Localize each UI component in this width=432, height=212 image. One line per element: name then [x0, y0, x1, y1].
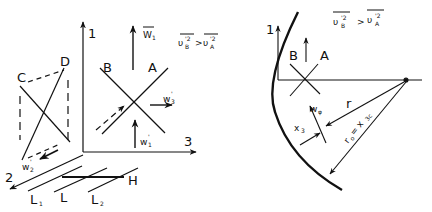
line-l	[54, 168, 107, 192]
svg-text:2: 2	[30, 166, 34, 173]
center-point	[404, 78, 408, 82]
label-a: A	[148, 60, 157, 75]
label-axis-1-right: 1	[266, 22, 274, 37]
svg-text:3c: 3c	[363, 112, 373, 122]
svg-text:'2: '2	[341, 14, 347, 21]
label-d: D	[60, 54, 70, 69]
svg-text:'2: '2	[185, 35, 191, 42]
right-labels: 1 B A r w φ x 3 r o = x 3c υ B '2 > υ A …	[266, 10, 384, 146]
label-axis-3: 3	[184, 134, 192, 149]
curved-wall	[272, 12, 342, 190]
svg-text:B: B	[341, 22, 345, 29]
svg-text:'2: '2	[210, 35, 216, 42]
label-b: B	[103, 60, 112, 75]
svg-text:2: 2	[100, 200, 104, 207]
label-x3: x	[294, 123, 300, 133]
label-r: r	[346, 96, 352, 111]
label-c: C	[17, 70, 26, 85]
svg-text:1: 1	[152, 34, 156, 41]
svg-text:': '	[148, 133, 150, 140]
label-l: L	[60, 190, 68, 205]
inequality-right: υ B '2 > υ A '2	[333, 10, 384, 29]
label-axis-2: 2	[5, 170, 13, 185]
label-axis-1: 1	[88, 26, 96, 41]
label-w2: w	[22, 162, 29, 172]
svg-text:υ: υ	[367, 15, 372, 25]
cross-cd-1	[20, 86, 70, 142]
svg-text:υ: υ	[203, 38, 208, 48]
svg-text:1: 1	[39, 200, 43, 207]
label-a-right: A	[320, 48, 329, 63]
label-w-phi: w	[310, 104, 317, 114]
svg-text:φ: φ	[318, 108, 322, 116]
svg-text:>: >	[195, 38, 203, 48]
radius-r0	[330, 82, 406, 174]
label-w1: W	[143, 30, 152, 40]
label-l2: L	[91, 192, 99, 207]
cross-ab-1	[100, 68, 165, 133]
svg-text:': '	[171, 90, 173, 97]
label-l1: L	[30, 192, 38, 207]
svg-text:B: B	[185, 43, 189, 50]
x3-line	[300, 133, 320, 145]
svg-text:υ: υ	[333, 17, 338, 27]
line-l1	[28, 166, 82, 191]
label-w3: w	[163, 94, 170, 104]
inequality-left: υ B '2 > υ A '2	[178, 34, 218, 50]
svg-text:'2: '2	[375, 12, 381, 19]
svg-text:': '	[30, 158, 32, 165]
label-w1-prime: w	[140, 137, 147, 147]
svg-text:υ: υ	[178, 38, 183, 48]
svg-text:A: A	[210, 43, 215, 50]
left-panel	[10, 22, 196, 192]
label-h: H	[128, 173, 138, 188]
diagram-canvas: 1 3 2 C D B A H W 1 w 3 ' w 1 ' w 2 ' L …	[0, 0, 432, 212]
label-b-right: B	[289, 48, 298, 63]
svg-text:>: >	[357, 17, 365, 27]
arrow-w2	[40, 150, 58, 159]
svg-text:3: 3	[171, 98, 175, 105]
svg-text:A: A	[375, 20, 380, 27]
svg-text:3: 3	[301, 127, 305, 134]
svg-text:1: 1	[148, 141, 152, 148]
